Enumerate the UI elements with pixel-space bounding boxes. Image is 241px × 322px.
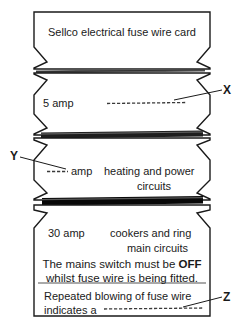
- mains-switch-off-emphasis: OFF: [179, 258, 202, 270]
- footer-line1: Repeated blowing of fuse wire: [44, 291, 191, 302]
- mains-switch-warning-text: The mains switch must be: [42, 258, 175, 270]
- card-panel-title: [34, 12, 210, 69]
- rating-5amp: 5 amp: [43, 98, 74, 109]
- description-mid-amp-line1: heating and power: [104, 166, 195, 177]
- callout-label-y: Y: [10, 150, 18, 162]
- rating-mid-amp-suffix: amp: [71, 166, 92, 177]
- mains-switch-warning-line1: The mains switch must be OFF: [34, 259, 210, 271]
- callout-label-x: X: [223, 84, 231, 96]
- description-30amp-line1: cookers and ring: [110, 228, 191, 239]
- footer-line2-text: indicates a: [44, 305, 97, 316]
- rating-30amp: 30 amp: [48, 228, 85, 239]
- fuse-wire-card-diagram: Sellco electrical fuse wire card 5 amp a…: [0, 0, 241, 322]
- description-mid-amp-line2: circuits: [104, 181, 204, 192]
- mains-switch-warning-line2: whilst fuse wire is being fitted.: [34, 273, 210, 285]
- description-30amp-line2: main circuits: [110, 243, 205, 254]
- card-title: Sellco electrical fuse wire card: [34, 27, 210, 38]
- callout-label-z: Z: [223, 291, 230, 303]
